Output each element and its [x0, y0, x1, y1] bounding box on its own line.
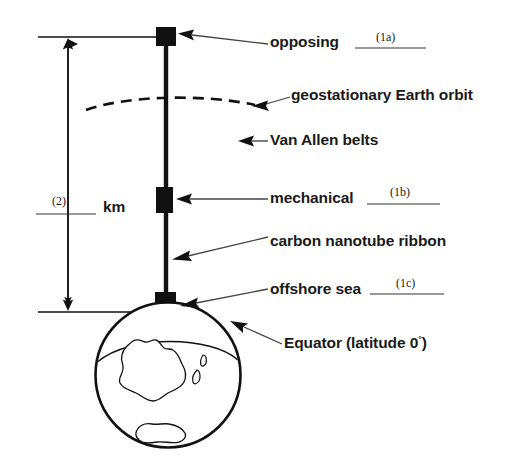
leader-arrow-opposing: [178, 30, 194, 41]
measure-unit: km: [103, 198, 125, 216]
label-geostationary-earth-orbit: geostationary Earth orbit: [291, 86, 473, 104]
blank-tag-1a: (1a): [376, 30, 395, 45]
diagram-artwork: [0, 0, 532, 474]
diagram-canvas: opposing (1a) geostationary Earth orbit …: [0, 0, 532, 474]
blank-tag-1b: (1b): [390, 185, 410, 200]
leader-opposing: [192, 35, 268, 44]
antarctica-outline: [136, 424, 186, 443]
mechanical-station-square: [156, 187, 173, 213]
geostationary-orbit-arc: [86, 98, 255, 110]
label-carbon-nanotube-ribbon: carbon nanotube ribbon: [270, 232, 446, 250]
label-mechanical: mechanical: [270, 189, 353, 207]
label-equator-text: Equator (latitude 0: [284, 334, 418, 351]
label-van-allen-belts: Van Allen belts: [270, 131, 378, 149]
label-offshore-sea: offshore sea: [270, 280, 361, 298]
measure-tag: (2): [52, 194, 66, 209]
label-equator-suffix: ): [422, 334, 427, 351]
leader-offshore-sea: [196, 289, 268, 303]
leader-geostationary: [266, 97, 290, 104]
leader-ribbon: [188, 237, 268, 256]
new-zealand-north-outline: [201, 355, 207, 366]
blank-tag-1c: (1c): [396, 276, 415, 291]
leader-arrow-mechanical: [176, 194, 192, 205]
leader-arrow-van-allen: [238, 136, 254, 147]
counterweight-square: [156, 27, 176, 46]
leader-equator: [244, 327, 282, 344]
label-equator: Equator (latitude 0°): [284, 334, 427, 352]
leader-arrow-geostationary: [252, 101, 269, 112]
label-opposing: opposing: [270, 33, 339, 51]
